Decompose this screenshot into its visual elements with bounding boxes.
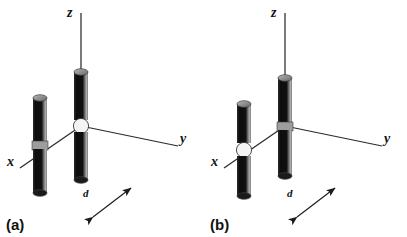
left-dipole-a-top-cap (33, 95, 47, 102)
left-dipole-b-lower-rod (237, 156, 251, 196)
y-axis-label-b: y (382, 131, 391, 146)
right-dipole-a-top-cap (74, 69, 88, 76)
left-dipole-a-lower-rod (33, 149, 47, 193)
right-dipole-a-lower-rod (74, 132, 88, 180)
spacing-label-a: d (83, 187, 89, 199)
x-axis-b (224, 126, 285, 168)
y-axis-b (285, 126, 382, 146)
z-axis-label-a: z (66, 5, 73, 20)
dipole-array-figure: z y x (0, 0, 407, 237)
left-dipole-b-feed-gap (236, 142, 251, 157)
spacing-label-b: d (287, 187, 293, 199)
right-dipole-b-collar (277, 122, 293, 131)
y-axis-a (81, 126, 178, 146)
right-dipole-b-upper-rod (278, 78, 292, 122)
panel-a-drawing: z y x (0, 0, 203, 237)
x-axis-label-a: x (6, 154, 14, 169)
right-dipole-b-top-cap (278, 75, 292, 82)
right-dipole-b-bottom-cap (278, 173, 292, 180)
spacing-arrow-a (93, 188, 131, 217)
z-axis-label-b: z (270, 5, 277, 20)
y-axis-label-a: y (178, 131, 187, 146)
panel-b: z y x (204, 0, 407, 237)
right-dipole-a-upper-rod (74, 72, 88, 120)
right-dipole-b-lower-rod (278, 130, 292, 176)
panel-a-label: (a) (6, 216, 24, 233)
left-dipole-a-upper-rod (33, 98, 47, 142)
left-dipole-a-bottom-cap (33, 190, 47, 197)
x-axis-label-b: x (210, 154, 218, 169)
left-dipole-b-top-cap (237, 101, 251, 108)
left-dipole-b (236, 101, 251, 200)
left-dipole-a-collar (32, 141, 48, 150)
panel-b-drawing: z y x (204, 0, 407, 237)
right-dipole-a-feed-gap (73, 118, 88, 133)
panel-a: z y x (0, 0, 203, 237)
left-dipole-b-bottom-cap (237, 193, 251, 200)
right-dipole-a (73, 69, 88, 184)
right-dipole-a-bottom-cap (74, 177, 88, 184)
left-dipole-b-upper-rod (237, 104, 251, 143)
panel-b-label: (b) (210, 216, 229, 233)
spacing-arrow-b (297, 188, 335, 217)
left-dipole-a (32, 95, 48, 197)
x-axis-a (20, 126, 81, 168)
right-dipole-b (277, 75, 293, 180)
